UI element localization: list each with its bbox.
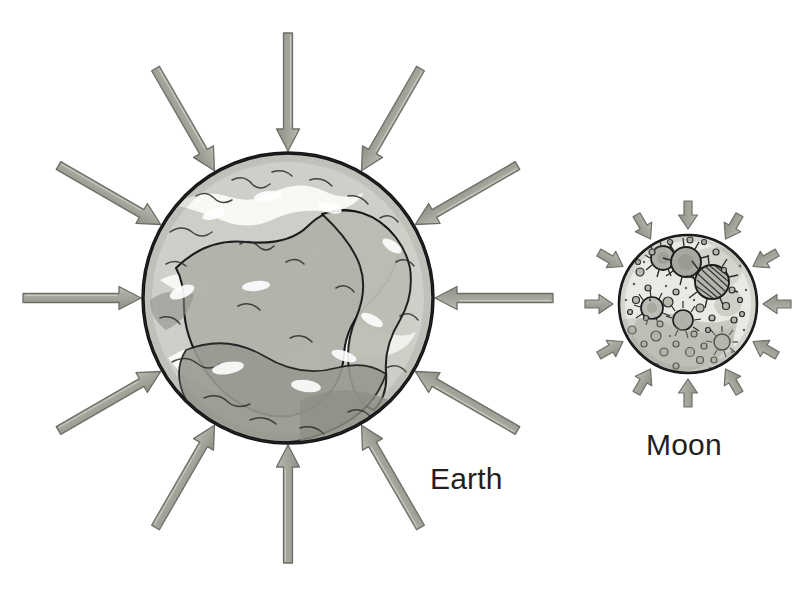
gravity-diagram — [0, 0, 812, 597]
earth-label: Earth — [430, 462, 503, 496]
moon-label: Moon — [646, 428, 722, 462]
